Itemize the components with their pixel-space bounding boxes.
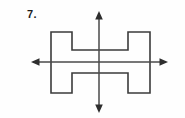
x-axis-left-arrow-icon <box>31 58 40 66</box>
y-axis-down-arrow-icon <box>95 105 103 114</box>
geometry-figure <box>0 0 185 118</box>
x-axis-right-arrow-icon <box>160 58 169 66</box>
figure-screenshot: 7. <box>0 0 185 118</box>
y-axis-up-arrow-icon <box>95 11 103 20</box>
